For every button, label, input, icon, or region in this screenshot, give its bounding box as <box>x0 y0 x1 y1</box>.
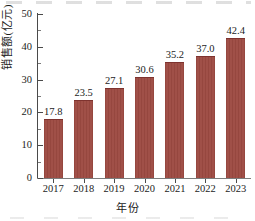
bar <box>196 56 215 178</box>
y-axis-tick-label: 20 <box>0 107 32 118</box>
bar-value-label: 23.5 <box>61 88 107 99</box>
bar-value-label: 27.1 <box>91 76 137 87</box>
bar <box>165 62 184 178</box>
plot-area: 17.823.527.130.635.237.042.4 <box>38 14 251 178</box>
x-axis-tick-label: 2023 <box>216 184 255 195</box>
bar-value-label: 17.8 <box>30 107 76 118</box>
scan-artifact-bottom <box>10 217 247 219</box>
bar <box>135 77 154 178</box>
bar <box>226 38 245 178</box>
bar-value-label: 30.6 <box>122 65 168 76</box>
y-axis-tick-label: 10 <box>0 140 32 151</box>
y-axis-title: 销售额(亿元) <box>0 0 14 92</box>
bar <box>105 88 124 178</box>
bar-value-label: 37.0 <box>182 44 228 55</box>
x-axis-title: 年份 <box>0 199 255 215</box>
scan-artifact-top <box>6 1 251 4</box>
bar <box>44 119 63 178</box>
bar <box>74 100 93 178</box>
bar-value-label: 42.4 <box>213 26 255 37</box>
y-axis-tick <box>38 178 43 179</box>
bar-chart: 01020304050 17.823.527.130.635.237.042.4… <box>0 0 255 221</box>
y-axis-tick-label: 0 <box>0 173 32 184</box>
